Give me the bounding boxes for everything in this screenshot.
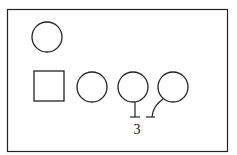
female-symbol-4 (158, 72, 188, 102)
female-symbol-1 (32, 22, 62, 52)
twin-label: 3 (134, 122, 141, 137)
female-symbol-3 (118, 72, 148, 102)
diagram-frame (8, 10, 228, 152)
female-symbol-2 (77, 72, 107, 102)
pedigree-diagram: 3 (0, 0, 237, 155)
male-symbol (34, 71, 64, 101)
